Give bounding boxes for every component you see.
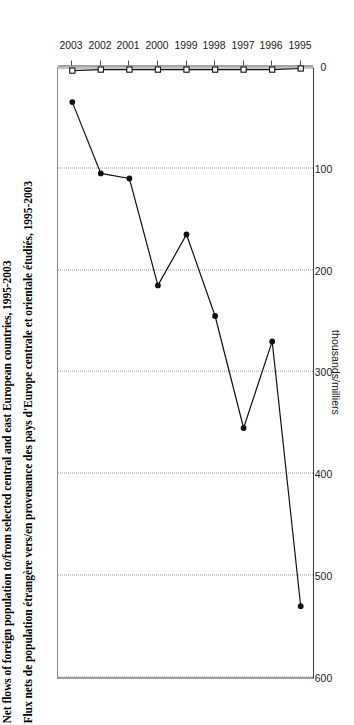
x-tick-label: 2003 [60, 40, 83, 51]
data-point-marker [298, 65, 303, 70]
page-title: Net flows of foreign population to/from … [1, 260, 14, 723]
y-axis-title: thousands/milliers [330, 253, 342, 493]
x-tick-label: 1996 [260, 40, 283, 51]
page-subtitle: Flux nets de population étrangère vers/e… [22, 181, 35, 723]
data-point-marker [155, 67, 160, 72]
data-point-marker [127, 67, 132, 72]
data-point-marker [184, 67, 189, 72]
x-tick-mark [71, 60, 72, 65]
x-tick-label: 1995 [288, 40, 311, 51]
data-point-marker [70, 68, 75, 73]
y-tick-label: 100 [315, 163, 332, 174]
data-point-marker [298, 603, 304, 609]
x-tick-label: 2002 [88, 40, 111, 51]
data-point-marker [127, 175, 133, 181]
data-point-marker [213, 67, 218, 72]
x-tick-label: 2001 [117, 40, 140, 51]
x-tick-mark [157, 60, 158, 65]
x-tick-mark [243, 60, 244, 65]
data-point-marker [69, 99, 75, 105]
data-point-marker [98, 170, 104, 176]
x-tick-mark [100, 60, 101, 65]
x-axis-ticks: 199519961997199819992000200120022003 [57, 9, 314, 65]
data-point-marker [270, 67, 275, 72]
y-tick-label: 500 [315, 571, 332, 582]
x-tick-label: 1997 [231, 40, 254, 51]
x-tick-mark [300, 60, 301, 65]
plot-area [57, 67, 314, 678]
data-point-marker [241, 67, 246, 72]
x-tick-mark [214, 60, 215, 65]
series-line [72, 102, 300, 606]
data-point-marker [269, 338, 275, 344]
y-tick-label: 600 [315, 673, 332, 684]
data-point-marker [212, 313, 218, 319]
x-tick-label: 2000 [145, 40, 168, 51]
x-tick-mark [128, 60, 129, 65]
data-series-layer [58, 66, 315, 677]
y-tick-label: 0 [321, 62, 327, 73]
data-point-marker [241, 425, 247, 431]
data-point-marker [184, 231, 190, 237]
x-tick-mark [186, 60, 187, 65]
data-point-marker [98, 67, 103, 72]
chart-titles: Net flows of foreign population to/from … [0, 0, 46, 725]
x-tick-label: 1999 [174, 40, 197, 51]
x-tick-label: 1998 [203, 40, 226, 51]
chart-stage: Net flows of foreign population to/from … [0, 0, 354, 725]
x-tick-mark [271, 60, 272, 65]
